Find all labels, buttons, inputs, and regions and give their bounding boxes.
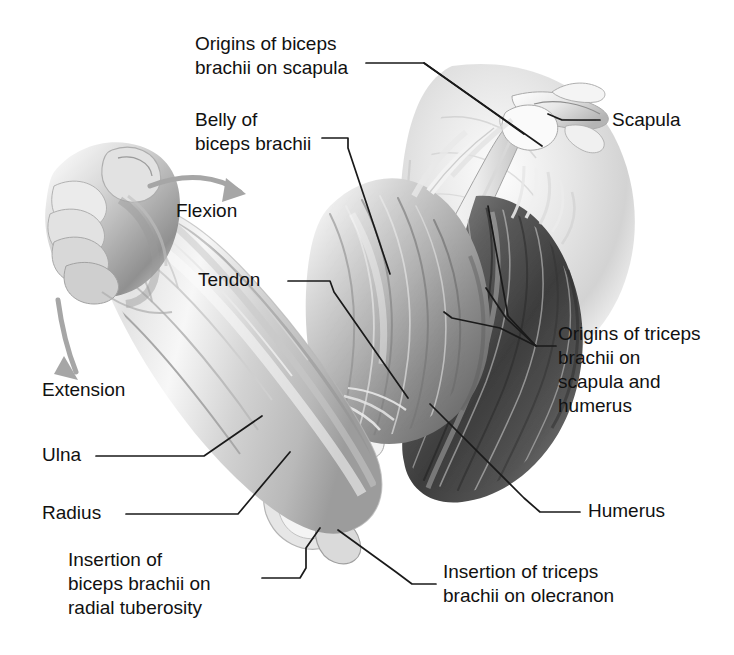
label-belly-of-biceps-brachii: Belly of biceps brachii (195, 108, 311, 156)
label-ulna: Ulna (42, 443, 81, 467)
label-origins-of-biceps-brachii: Origins of biceps brachii on scapula (195, 32, 348, 80)
label-scapula: Scapula (612, 108, 681, 132)
label-flexion: Flexion (176, 200, 237, 222)
extension-arrow (54, 300, 78, 380)
label-insertion-of-biceps-brachii: Insertion of biceps brachii on radial tu… (68, 548, 211, 620)
label-humerus: Humerus (588, 499, 665, 523)
label-radius: Radius (42, 501, 101, 525)
label-tendon: Tendon (198, 268, 260, 292)
anatomy-figure: Origins of biceps brachii on scapula Bel… (0, 0, 734, 655)
label-origins-of-triceps-brachii: Origins of triceps brachii on scapula an… (558, 322, 701, 418)
label-extension: Extension (42, 379, 125, 401)
label-insertion-of-triceps-brachii: Insertion of triceps brachii on olecrano… (443, 560, 614, 608)
